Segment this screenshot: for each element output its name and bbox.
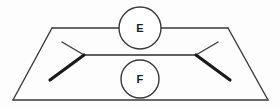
node-label-e: E <box>136 22 144 34</box>
trapezoid-left-edge <box>13 28 52 100</box>
right-chevron-thin-arm <box>196 42 218 55</box>
left-chevron-thin-arm <box>62 42 84 55</box>
trapezoid-right-edge <box>228 28 268 100</box>
node-label-f: F <box>137 73 144 85</box>
line-art-diagram: F E <box>0 0 280 108</box>
diagram-canvas: F E <box>0 0 280 108</box>
right-chevron-thick-arm <box>196 55 230 80</box>
left-chevron-thick-arm <box>50 55 84 80</box>
